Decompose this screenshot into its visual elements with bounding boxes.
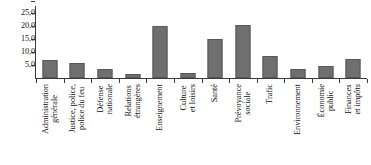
bar[interactable]	[180, 73, 195, 78]
bar[interactable]	[318, 66, 333, 78]
x-axis-label: Enseignement	[146, 84, 174, 162]
x-axis-label: Cultureet loisirs	[174, 84, 202, 162]
x-tick-mark	[312, 79, 313, 83]
bar-slot	[174, 7, 202, 78]
x-axis-label: Trafic	[257, 84, 285, 162]
bar[interactable]	[70, 63, 85, 78]
y-axis-top-tick	[31, 1, 35, 2]
x-axis-label: Défensenationale	[91, 84, 119, 162]
bar-series	[36, 7, 367, 78]
x-tick-mark	[174, 79, 175, 83]
bar-slot	[312, 7, 340, 78]
bar-slot	[64, 7, 92, 78]
bar-slot	[119, 7, 147, 78]
y-tick-mark	[31, 26, 35, 27]
x-axis-label: Prévoyancesociale	[229, 84, 257, 162]
bar-slot	[284, 7, 312, 78]
bar[interactable]	[346, 59, 361, 78]
x-tick-mark	[257, 79, 258, 83]
bar-slot	[146, 7, 174, 78]
bar-slot	[257, 7, 285, 78]
x-axis-label: Santé	[202, 84, 230, 162]
y-tick-mark	[31, 65, 35, 66]
x-axis-label: Économiepublic	[312, 84, 340, 162]
x-tick-mark	[36, 79, 37, 83]
bar-slot	[91, 7, 119, 78]
x-tick-mark	[367, 79, 368, 83]
x-axis-label: Environnement	[284, 84, 312, 162]
x-tick-mark	[202, 79, 203, 83]
bar[interactable]	[263, 56, 278, 78]
x-tick-mark	[146, 79, 147, 83]
x-tick-mark	[64, 79, 65, 83]
bar[interactable]	[125, 74, 140, 78]
bar[interactable]	[153, 26, 168, 78]
x-axis-label: Administrationgénérale	[36, 84, 64, 162]
bar[interactable]	[291, 69, 306, 78]
y-tick-mark	[31, 39, 35, 40]
x-tick-mark	[284, 79, 285, 83]
x-tick-mark	[229, 79, 230, 83]
bar-slot	[339, 7, 367, 78]
y-tick-mark	[31, 52, 35, 53]
x-axis-label: Financeset impôts	[339, 84, 367, 162]
x-axis-label: Relationsétrangères	[119, 84, 147, 162]
bar-slot	[202, 7, 230, 78]
bar-slot	[229, 7, 257, 78]
y-tick-mark	[31, 13, 35, 14]
bar-slot	[36, 7, 64, 78]
bar[interactable]	[235, 25, 250, 78]
bar[interactable]	[42, 60, 57, 78]
x-axis-labels: AdministrationgénéraleJustice, police,po…	[36, 84, 367, 164]
x-axis-label: Justice, police,police du feu	[64, 84, 92, 162]
bar[interactable]	[97, 69, 112, 78]
x-tick-mark	[91, 79, 92, 83]
x-tick-mark	[339, 79, 340, 83]
x-tick-mark	[119, 79, 120, 83]
bar-chart: 25,020,015,010,05,0 Administrationgénéra…	[0, 0, 371, 165]
bar[interactable]	[208, 39, 223, 78]
